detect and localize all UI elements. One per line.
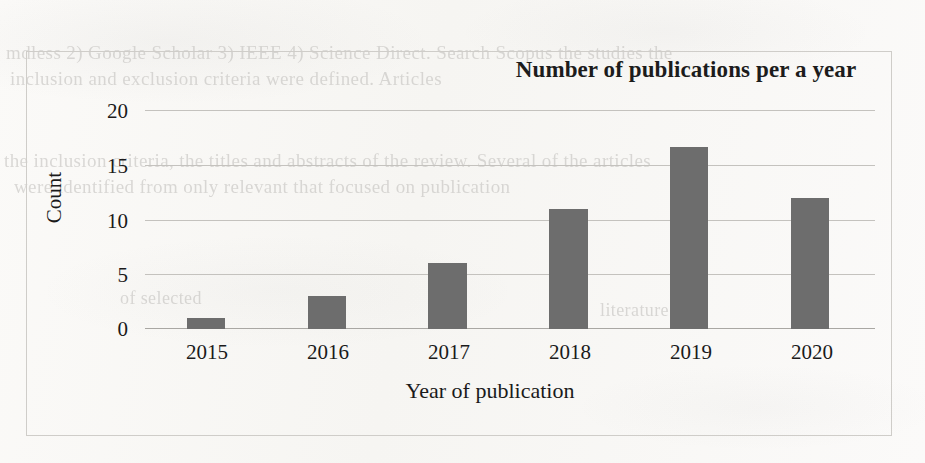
bar-2016 xyxy=(308,296,346,329)
y-tick-label-0: 0 xyxy=(88,317,128,342)
y-axis-title: Count xyxy=(42,138,67,258)
x-tick-label-2020: 2020 xyxy=(752,340,872,365)
x-axis-title: Year of publication xyxy=(310,378,670,404)
bar-2018 xyxy=(549,209,588,329)
x-tick-label-2015: 2015 xyxy=(147,340,267,365)
bar-2020 xyxy=(791,198,829,329)
y-tick-label-20: 20 xyxy=(88,99,128,124)
chart-screenshot: mdless 2) Google Scholar 3) IEEE 4) Scie… xyxy=(0,0,925,463)
bar-series xyxy=(145,110,875,329)
chart-title: Number of publications per a year xyxy=(480,57,892,83)
x-tick-label-2018: 2018 xyxy=(510,340,630,365)
x-tick-label-2017: 2017 xyxy=(389,340,509,365)
bar-2017 xyxy=(428,263,467,329)
y-tick-label-5: 5 xyxy=(88,263,128,288)
y-tick-label-10: 10 xyxy=(88,209,128,234)
x-tick-label-2019: 2019 xyxy=(631,340,751,365)
bar-2015 xyxy=(187,318,225,329)
y-tick-label-15: 15 xyxy=(88,154,128,179)
bar-2019 xyxy=(670,147,708,329)
x-tick-label-2016: 2016 xyxy=(268,340,388,365)
